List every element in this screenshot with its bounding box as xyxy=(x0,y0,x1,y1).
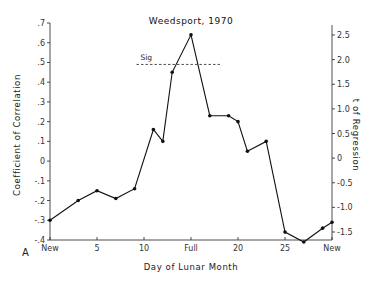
chart-title: Weedsport, 1970 xyxy=(149,16,233,26)
y-tick-label: .7 xyxy=(37,19,45,28)
data-point xyxy=(246,149,250,153)
y-tick-label: 0 xyxy=(40,157,45,166)
x-tick-label: 10 xyxy=(139,244,149,253)
data-point xyxy=(133,187,137,191)
x-tick-label: 25 xyxy=(280,244,290,253)
y-tick-label: -.3 xyxy=(34,216,45,225)
data-point xyxy=(330,220,334,224)
line-chart: Weedsport, 1970 .7.6.5.4.3.2.10-.1-.2-.3… xyxy=(0,0,375,283)
data-point xyxy=(302,240,306,244)
data-point xyxy=(283,230,287,234)
x-tick-label: New xyxy=(323,244,341,253)
x-tick-label: 20 xyxy=(233,244,243,253)
x-tick-label: New xyxy=(41,244,59,253)
data-point xyxy=(152,128,156,132)
data-point xyxy=(189,33,193,37)
x-axis-title: Day of Lunar Month xyxy=(144,262,239,272)
y-tick-label: .5 xyxy=(37,58,45,67)
y-tick-label: .6 xyxy=(37,39,45,48)
panel-label: A xyxy=(22,247,29,258)
y2-axis-title: t of Regression xyxy=(351,99,361,171)
data-point xyxy=(170,71,174,75)
data-point xyxy=(114,197,118,201)
data-point xyxy=(264,140,268,144)
x-tick-label: 5 xyxy=(94,244,99,253)
y-tick-label: .4 xyxy=(37,78,45,87)
data-point xyxy=(321,226,325,230)
y2-tick-label: 0 xyxy=(337,154,342,163)
y2-tick-label: -1.5 xyxy=(337,228,353,237)
data-point xyxy=(95,189,99,193)
data-point xyxy=(208,114,212,118)
y-tick-label: .1 xyxy=(37,137,45,146)
y-tick-label: .3 xyxy=(37,98,45,107)
right-y-axis: 2.52.01.51.00.50-0.5-1.0-1.5 xyxy=(332,25,353,240)
y-axis-title: Coefficient of Correlation xyxy=(12,74,22,196)
data-point xyxy=(76,199,80,203)
y2-tick-label: -0.5 xyxy=(337,179,353,188)
y2-tick-label: 2.0 xyxy=(337,56,350,65)
sig-label: Sig xyxy=(140,53,152,62)
y2-tick-label: 1.0 xyxy=(337,105,350,114)
data-point xyxy=(227,114,231,118)
x-axis: New510Full2025New xyxy=(41,237,341,253)
y2-tick-label: -1.0 xyxy=(337,203,353,212)
data-point xyxy=(48,218,52,222)
y-tick-label: -.1 xyxy=(34,177,45,186)
data-point xyxy=(236,120,240,124)
series-line xyxy=(50,35,332,242)
y-tick-label: -.2 xyxy=(34,197,45,206)
left-y-axis: .7.6.5.4.3.2.10-.1-.2-.3-.4 xyxy=(34,19,50,245)
y2-tick-label: 2.5 xyxy=(337,31,350,40)
data-point xyxy=(161,140,165,144)
x-tick-label: Full xyxy=(184,244,198,253)
y-tick-label: .2 xyxy=(37,118,45,127)
y2-tick-label: 1.5 xyxy=(337,80,350,89)
y2-tick-label: 0.5 xyxy=(337,130,350,139)
